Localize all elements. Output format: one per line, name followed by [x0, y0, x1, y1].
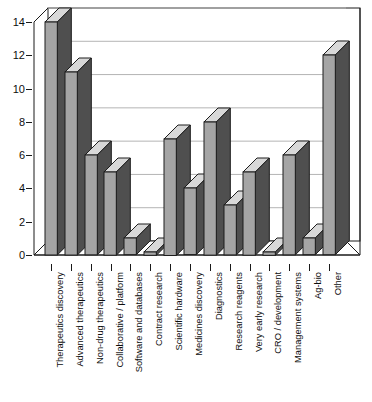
- x-axis-labels: Therapeutics discoveryAdvanced therapeut…: [32, 272, 368, 402]
- y-axis: 02468101214: [0, 0, 32, 270]
- x-axis-category-label: Very early research: [254, 272, 264, 352]
- x-axis-category-label: Diagnostics: [214, 272, 224, 320]
- bars-layer: [32, 8, 362, 264]
- plot-area: [32, 8, 362, 264]
- x-tick-mark: [190, 264, 191, 271]
- x-tick-mark: [91, 264, 92, 271]
- x-axis-category-label: CRO / development: [273, 272, 283, 354]
- x-tick-mark: [170, 264, 171, 271]
- x-tick-mark: [150, 264, 151, 271]
- y-tick-label: 8: [19, 116, 25, 127]
- x-axis-category-label: Other: [333, 272, 343, 295]
- y-tick-label: 4: [19, 183, 25, 194]
- y-tick-label: 10: [13, 83, 25, 94]
- x-tick-mark: [130, 264, 131, 271]
- x-axis-category-label: Contract research: [154, 272, 164, 346]
- y-tick-label: 2: [19, 216, 25, 227]
- x-axis-category-label: Therapeutics discovery: [55, 272, 65, 368]
- x-axis-category-label: Research reagents: [234, 272, 244, 351]
- x-tick-mark: [71, 264, 72, 271]
- x-tick-mark: [250, 264, 251, 271]
- x-axis-category-label: Scientific hardware: [174, 272, 184, 351]
- x-axis-category-label: Medicines discovery: [194, 272, 204, 356]
- x-tick-mark: [111, 264, 112, 271]
- x-tick-mark: [230, 264, 231, 271]
- x-tick-mark: [329, 264, 330, 271]
- x-tick-mark: [210, 264, 211, 271]
- x-axis-category-label: Software and databases: [134, 272, 144, 372]
- y-tick-label: 14: [13, 17, 25, 28]
- bar-chart: 02468101214 Therapeutics discoveryAdvanc…: [0, 0, 372, 402]
- x-axis-category-label: Non-drug therapeutics: [95, 272, 105, 364]
- bar: [323, 41, 349, 255]
- x-axis-category-label: Ag-bio: [313, 272, 323, 299]
- x-tick-mark: [269, 264, 270, 271]
- x-axis-category-label: Collaborative / platform: [115, 272, 125, 368]
- x-axis-category-label: Management systems: [293, 272, 303, 363]
- y-tick-label: 6: [19, 150, 25, 161]
- x-tick-mark: [51, 264, 52, 271]
- x-tick-mark: [289, 264, 290, 271]
- y-tick-label: 12: [13, 50, 25, 61]
- x-tick-mark: [309, 264, 310, 271]
- y-tick-label: 0: [19, 250, 25, 261]
- x-axis-category-label: Advanced therapeutics: [75, 272, 85, 367]
